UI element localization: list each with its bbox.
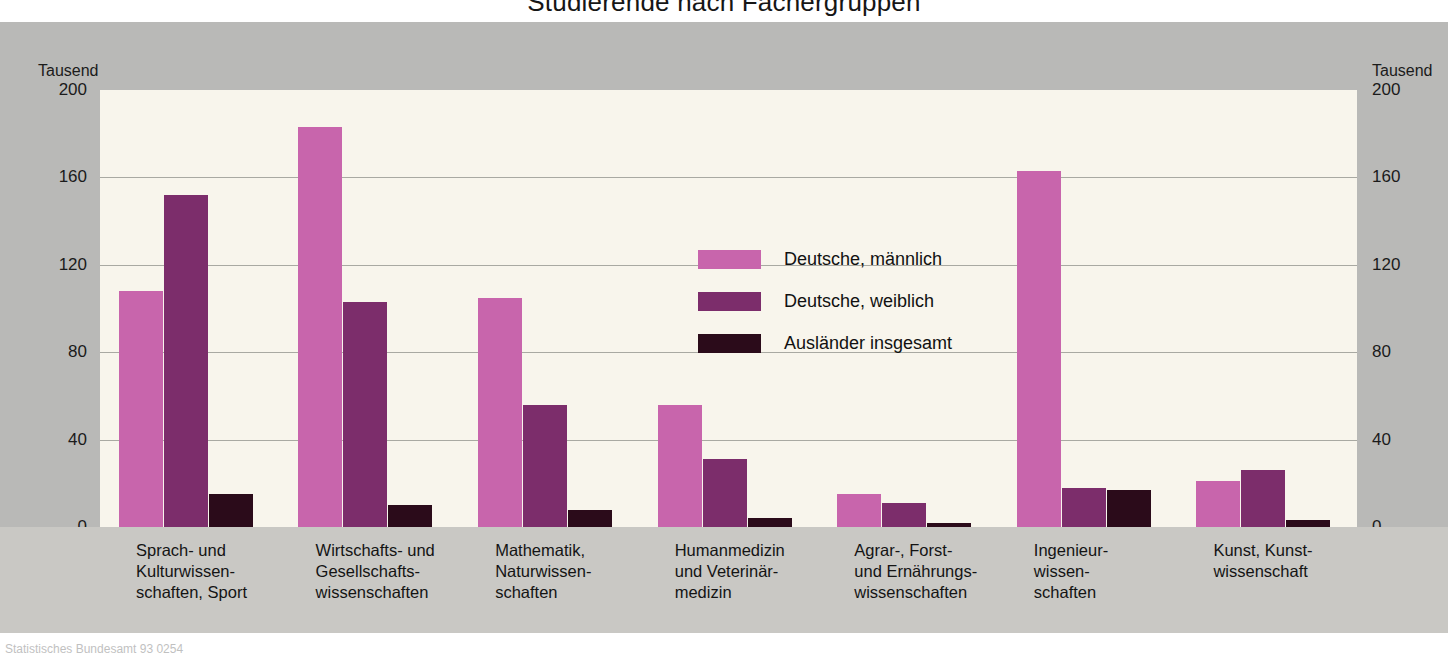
legend-item[interactable]: Deutsche, weiblich: [698, 280, 1058, 322]
y-axis-tick-left: 80: [68, 342, 87, 362]
bar[interactable]: [388, 505, 432, 527]
y-axis-tick-left: 120: [59, 255, 87, 275]
bar[interactable]: [1241, 470, 1285, 527]
y-axis-unit-right: Tausend: [1372, 62, 1433, 80]
chart-title: Studierende nach Fächergruppen: [527, 0, 920, 18]
y-axis-tick-left: 200: [59, 80, 87, 100]
legend-label: Deutsche, männlich: [784, 249, 942, 270]
bar[interactable]: [568, 510, 612, 527]
bar[interactable]: [343, 302, 387, 527]
bar[interactable]: [1107, 490, 1151, 527]
legend-item[interactable]: Deutsche, männlich: [698, 238, 1058, 280]
y-axis-tick-right: 40: [1372, 430, 1391, 450]
x-axis-category-label: Ingenieur- wissen- schaften: [1034, 540, 1108, 603]
bar[interactable]: [523, 405, 567, 527]
chart-legend: Deutsche, männlichDeutsche, weiblichAusl…: [698, 238, 1058, 364]
bar-group: [298, 90, 432, 527]
legend-label: Deutsche, weiblich: [784, 291, 934, 312]
bar[interactable]: [478, 298, 522, 527]
bar[interactable]: [837, 494, 881, 527]
bar[interactable]: [882, 503, 926, 527]
bar[interactable]: [1196, 481, 1240, 527]
legend-swatch-icon: [698, 334, 761, 353]
legend-label: Ausländer insgesamt: [784, 333, 952, 354]
bar[interactable]: [119, 291, 163, 527]
legend-swatch-icon: [698, 292, 761, 311]
bar-group: [119, 90, 253, 527]
y-axis-unit-left: Tausend: [38, 62, 99, 80]
x-axis-category-label: Humanmedizin und Veterinär- medizin: [675, 540, 785, 603]
legend-item[interactable]: Ausländer insgesamt: [698, 322, 1058, 364]
chart-figure: Studierende nach Fächergruppen Tausend T…: [0, 0, 1448, 653]
x-axis-category-label: Kunst, Kunst- wissenschaft: [1213, 540, 1312, 582]
bar[interactable]: [703, 459, 747, 527]
bar[interactable]: [209, 494, 253, 527]
y-axis-tick-right: 200: [1372, 80, 1400, 100]
x-axis-category-label: Sprach- und Kulturwissen- schaften, Spor…: [136, 540, 247, 603]
x-axis-category-label: Mathematik, Naturwissen- schaften: [495, 540, 591, 603]
bar[interactable]: [748, 518, 792, 527]
y-axis-tick-right: 120: [1372, 255, 1400, 275]
legend-swatch-icon: [698, 250, 761, 269]
y-axis-tick-left: 40: [68, 430, 87, 450]
bar-group: [478, 90, 612, 527]
x-axis-category-label: Agrar-, Forst- und Ernährungs- wissensch…: [854, 540, 977, 603]
bar[interactable]: [658, 405, 702, 527]
bar[interactable]: [1062, 488, 1106, 527]
bar[interactable]: [164, 195, 208, 527]
plot-area: Deutsche, männlichDeutsche, weiblichAusl…: [100, 90, 1357, 527]
bar-group: [1196, 90, 1330, 527]
bar[interactable]: [298, 127, 342, 527]
chart-title-strip: Studierende nach Fächergruppen: [0, 0, 1448, 22]
y-axis-tick-left: 160: [59, 167, 87, 187]
chart-source-note: Statistisches Bundesamt 93 0254: [5, 642, 183, 653]
y-axis-tick-right: 80: [1372, 342, 1391, 362]
x-axis-category-label: Wirtschafts- und Gesellschafts- wissensc…: [316, 540, 435, 603]
y-axis-tick-right: 160: [1372, 167, 1400, 187]
